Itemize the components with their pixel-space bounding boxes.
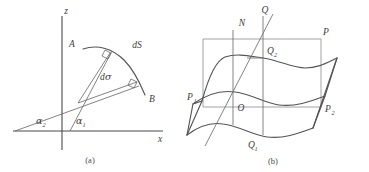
point-a-label: A xyxy=(68,39,75,49)
origin-label: O xyxy=(238,103,245,113)
point-q1-sub: 1 xyxy=(255,145,258,152)
panel-a-drawing: z x A B dS d σ α 2 α 1 (a) xyxy=(0,0,185,172)
panel-a: z x A B dS d σ α 2 α 1 (a) xyxy=(0,0,185,172)
angle-element-sigma: σ xyxy=(105,71,112,82)
point-q2-label: Q 2 xyxy=(267,46,278,58)
point-q2-base: Q xyxy=(267,46,274,56)
panel-b: N Q P Q 2 P 1 O P 2 Q 1 (b) xyxy=(185,0,369,172)
surface-curve-upper xyxy=(202,55,337,101)
angle-alpha-2-sub: 2 xyxy=(43,121,47,128)
arc-element-label: dS xyxy=(132,40,142,50)
cutting-plane-rect xyxy=(203,39,321,107)
point-q1-label: Q 1 xyxy=(248,140,258,152)
panel-a-caption: (a) xyxy=(85,155,95,165)
surface-curve-lower xyxy=(187,123,313,137)
point-p2-label: P 2 xyxy=(324,104,336,116)
panel-b-drawing: N Q P Q 2 P 1 O P 2 Q 1 (b) xyxy=(185,0,369,172)
point-p2-base: P xyxy=(324,104,331,114)
right-angle-mark-upper xyxy=(102,50,111,59)
z-axis-label: z xyxy=(63,6,68,16)
panel-b-caption: (b) xyxy=(268,156,278,166)
point-p2-sub: 2 xyxy=(332,109,336,116)
angle-element-label: d σ xyxy=(100,71,112,82)
apex-label: Q xyxy=(262,5,269,15)
point-p1-base: P xyxy=(186,92,193,102)
generator-right xyxy=(313,58,337,128)
angle-alpha-1-sub: 1 xyxy=(83,121,86,128)
figure-root: z x A B dS d σ α 2 α 1 (a) xyxy=(0,0,369,172)
point-p1-label: P 1 xyxy=(186,92,197,104)
angle-alpha-2-label: α 2 xyxy=(36,115,47,128)
plane-corner-label: P xyxy=(322,27,329,37)
angle-alpha-1-label: α 1 xyxy=(76,115,86,128)
point-b-label: B xyxy=(149,94,155,104)
normal-label: N xyxy=(238,18,246,28)
point-q2-sub: 2 xyxy=(274,51,278,58)
x-axis-label: x xyxy=(157,134,163,144)
surface-curve-middle xyxy=(193,92,325,106)
point-p1-sub: 1 xyxy=(194,97,197,104)
